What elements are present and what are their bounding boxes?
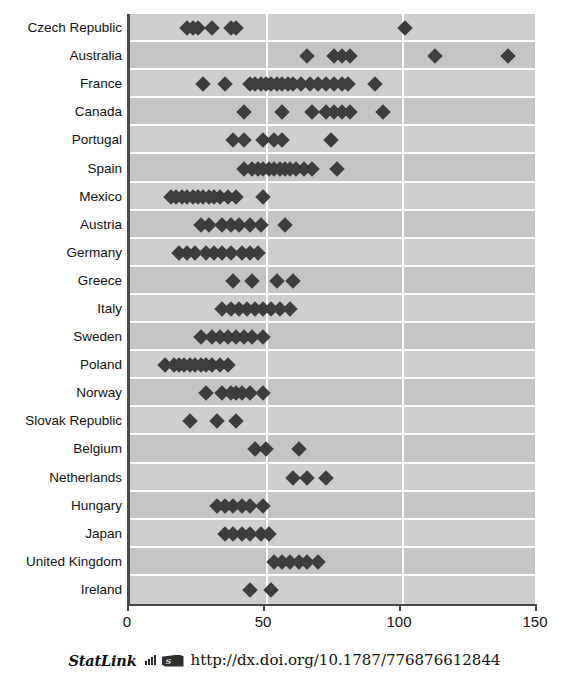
row-band xyxy=(130,576,535,604)
row-band xyxy=(130,323,535,351)
category-label: Netherlands xyxy=(2,471,122,485)
category-label: Canada xyxy=(2,105,122,119)
category-label: Slovak Republic xyxy=(2,414,122,428)
x-tick xyxy=(399,604,401,611)
category-label: Australia xyxy=(2,49,122,63)
category-label: Greece xyxy=(2,274,122,288)
category-label: Sweden xyxy=(2,330,122,344)
category-label: Italy xyxy=(2,302,122,316)
x-tick-label: 100 xyxy=(386,613,411,630)
category-label: Ireland xyxy=(2,583,122,597)
row-band xyxy=(130,267,535,295)
category-label: Mexico xyxy=(2,190,122,204)
x-tick xyxy=(535,604,537,611)
category-label: Belgium xyxy=(2,442,122,456)
x-tick xyxy=(127,604,129,611)
category-label: Japan xyxy=(2,527,122,541)
statlink-label: StatLink xyxy=(69,652,137,669)
x-tick-label: 50 xyxy=(255,613,272,630)
dot-chart: Czech RepublicAustraliaFranceCanadaPortu… xyxy=(0,0,569,620)
row-band xyxy=(130,435,535,463)
category-axis-labels: Czech RepublicAustraliaFranceCanadaPortu… xyxy=(0,14,122,604)
gridline-x-100 xyxy=(402,14,404,604)
row-band xyxy=(130,492,535,520)
x-tick xyxy=(263,604,265,611)
category-label: Hungary xyxy=(2,499,122,513)
category-label: Spain xyxy=(2,162,122,176)
category-label: Norway xyxy=(2,386,122,400)
plot-area xyxy=(127,14,535,604)
x-axis-line xyxy=(127,604,535,606)
chart-page: Czech RepublicAustraliaFranceCanadaPortu… xyxy=(0,0,569,675)
statlink-barchart-icon: S xyxy=(144,654,184,667)
row-band xyxy=(130,548,535,576)
row-band xyxy=(130,295,535,323)
row-band xyxy=(130,379,535,407)
x-tick-label: 150 xyxy=(522,613,547,630)
statlink-footer: StatLink S http://dx.doi.org/10.1787/776… xyxy=(0,645,569,675)
category-label: Portugal xyxy=(2,133,122,147)
row-band xyxy=(130,520,535,548)
category-label: Germany xyxy=(2,246,122,260)
category-label: France xyxy=(2,77,122,91)
category-label: Czech Republic xyxy=(2,21,122,35)
x-tick-label: 0 xyxy=(123,613,131,630)
row-band xyxy=(130,211,535,239)
category-label: Austria xyxy=(2,218,122,232)
category-label: United Kingdom xyxy=(2,555,122,569)
doi-link[interactable]: http://dx.doi.org/10.1787/776876612844 xyxy=(191,651,501,669)
category-label: Poland xyxy=(2,358,122,372)
